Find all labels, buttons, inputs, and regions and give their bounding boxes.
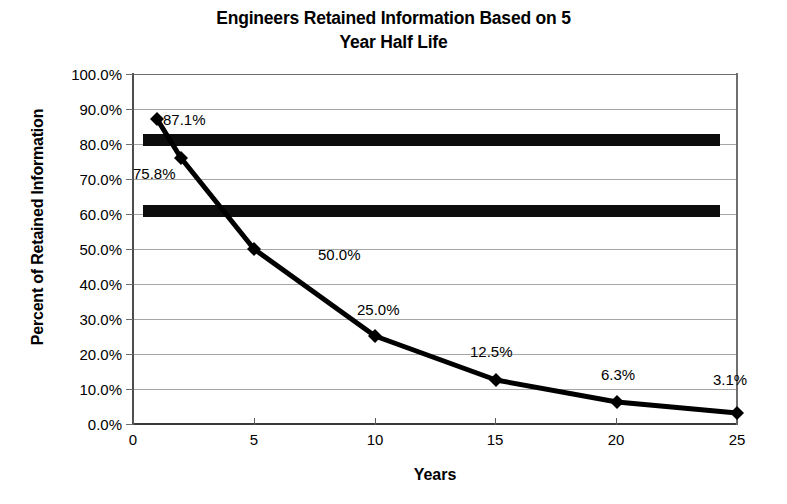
x-tick-mark-0 <box>133 418 134 425</box>
y-tick-mark-80 <box>126 144 133 145</box>
y-tick-mark-90 <box>126 109 133 110</box>
x-tick-label-5: 5 <box>234 432 274 448</box>
upper-threshold-band <box>143 134 720 146</box>
y-tick-mark-70 <box>126 179 133 180</box>
y-tick-label-30: 30.0% <box>32 312 122 327</box>
chart-container: Engineers Retained Information Based on … <box>0 0 787 504</box>
x-tick-mark-15 <box>495 418 496 425</box>
data-label-year-15: 12.5% <box>470 344 513 359</box>
chart-title-line-2: Year Half Life <box>0 30 787 54</box>
y-tick-label-50: 50.0% <box>32 242 122 257</box>
chart-title: Engineers Retained Information Based on … <box>0 6 787 54</box>
data-label-year-20: 6.3% <box>601 367 635 382</box>
y-tick-mark-20 <box>126 354 133 355</box>
data-label-year-5: 50.0% <box>318 247 361 262</box>
y-tick-mark-30 <box>126 319 133 320</box>
x-tick-mark-25 <box>737 418 738 425</box>
x-tick-label-10: 10 <box>355 432 395 448</box>
y-tick-label-0: 0.0% <box>32 417 122 432</box>
y-tick-label-80: 80.0% <box>32 137 122 152</box>
x-tick-mark-5 <box>254 418 255 425</box>
gridline-40 <box>133 284 737 285</box>
y-tick-label-70: 70.0% <box>32 172 122 187</box>
data-label-year-10: 25.0% <box>357 302 400 317</box>
y-tick-label-100: 100.0% <box>32 67 122 82</box>
lower-threshold-band <box>143 205 720 217</box>
y-tick-label-90: 90.0% <box>32 102 122 117</box>
x-tick-label-15: 15 <box>475 432 515 448</box>
x-tick-label-25: 25 <box>717 432 757 448</box>
y-tick-label-40: 40.0% <box>32 277 122 292</box>
y-tick-mark-100 <box>126 74 133 75</box>
x-tick-label-0: 0 <box>113 432 153 448</box>
data-label-year-25: 3.1% <box>713 372 747 387</box>
y-tick-label-60: 60.0% <box>32 207 122 222</box>
gridline-20 <box>133 354 737 355</box>
chart-title-line-1: Engineers Retained Information Based on … <box>216 8 571 28</box>
gridline-30 <box>133 319 737 320</box>
x-tick-label-20: 20 <box>596 432 636 448</box>
y-tick-label-10: 10.0% <box>32 382 122 397</box>
gridline-70 <box>133 179 737 180</box>
gridline-10 <box>133 389 737 390</box>
y-tick-label-20: 20.0% <box>32 347 122 362</box>
x-axis-line <box>133 423 738 425</box>
x-axis-title: Years <box>133 466 737 484</box>
y-tick-mark-10 <box>126 389 133 390</box>
data-label-year-2: 75.8% <box>133 166 176 181</box>
y-tick-mark-50 <box>126 249 133 250</box>
gridline-90 <box>133 109 737 110</box>
plot-area <box>133 74 737 424</box>
x-tick-mark-20 <box>616 418 617 425</box>
x-tick-mark-10 <box>375 418 376 425</box>
data-label-year-1: 87.1% <box>163 112 206 127</box>
y-tick-mark-0 <box>126 424 133 425</box>
y-tick-mark-60 <box>126 214 133 215</box>
gridline-100 <box>133 74 737 75</box>
y-tick-mark-40 <box>126 284 133 285</box>
gridline-50 <box>133 249 737 250</box>
